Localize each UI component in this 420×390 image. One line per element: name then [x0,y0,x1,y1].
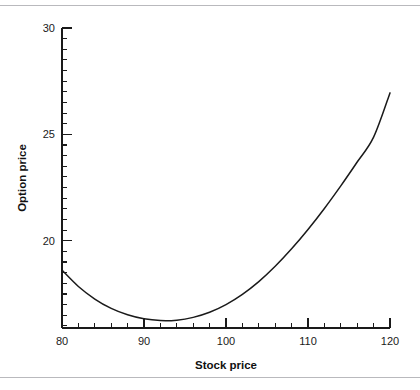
x-axis-title: Stock price [195,359,257,371]
option-price-curve [62,93,390,321]
option-price-chart: 202530 8090100110120 Stock price Option … [0,0,420,390]
y-axis-title: Option price [16,144,28,212]
x-tick-label: 110 [299,335,317,347]
top-divider-rule [0,5,420,6]
bottom-divider-rule [0,377,420,378]
y-tick-label: 20 [43,235,55,247]
x-tick-label: 120 [381,335,399,347]
figure-container: 202530 8090100110120 Stock price Option … [0,0,420,390]
x-axis-tick-labels: 8090100110120 [56,335,399,347]
x-tick-label: 100 [217,335,235,347]
x-tick-label: 80 [56,335,68,347]
y-axis-minor-ticks [62,39,67,326]
y-tick-label: 25 [43,128,55,140]
y-tick-label: 30 [43,22,55,34]
x-tick-label: 90 [138,335,150,347]
y-axis-tick-labels: 202530 [43,22,55,247]
